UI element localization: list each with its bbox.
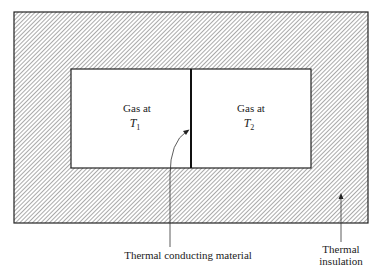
temp-subscript: 2 bbox=[250, 123, 254, 132]
insulation-callout-line1: Thermal bbox=[322, 243, 359, 255]
conductor-callout: Thermal conducting material bbox=[124, 249, 252, 261]
insulation-callout-line2: insulation bbox=[319, 255, 363, 267]
chamber-right-label: Gas at bbox=[237, 102, 265, 114]
thermal-diagram: Gas at T1 Gas at T2 Thermal conducting m… bbox=[0, 0, 377, 274]
temp-subscript: 1 bbox=[136, 123, 140, 132]
chamber-left-label: Gas at bbox=[123, 102, 151, 114]
